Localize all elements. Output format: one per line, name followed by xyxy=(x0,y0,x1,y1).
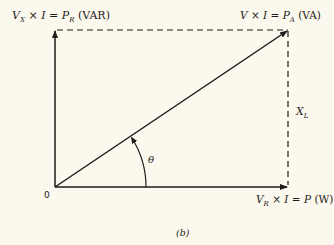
power-triangle-diagram xyxy=(0,0,334,245)
vx-subscript: X xyxy=(20,16,25,24)
equals-symbol: = xyxy=(267,9,282,21)
equals-symbol: = xyxy=(289,193,304,205)
times-symbol: × xyxy=(248,9,263,21)
pa-symbol: P xyxy=(283,9,290,21)
theta-angle-arc xyxy=(132,138,147,188)
reactive-power-label: VX × I = PR (VAR) xyxy=(12,10,110,21)
times-symbol: × xyxy=(269,193,284,205)
figure-caption: (b) xyxy=(176,228,190,238)
origin-label: 0 xyxy=(44,191,50,200)
pr-subscript: R xyxy=(69,16,74,24)
pa-subscript: A xyxy=(290,16,295,24)
times-symbol: × xyxy=(25,9,41,22)
inductive-reactance-label: XL xyxy=(296,106,309,117)
vr-symbol: V xyxy=(256,193,264,205)
theta-label: θ xyxy=(148,155,154,165)
real-power-label: VR × I = P (W) xyxy=(256,194,333,205)
var-unit: (VAR) xyxy=(74,9,110,22)
apparent-power-label: V × I = PA (VA) xyxy=(240,10,321,21)
v-symbol: V xyxy=(240,9,248,21)
apparent-power-vector xyxy=(55,31,287,187)
va-unit: (VA) xyxy=(295,9,321,21)
equals-symbol: = xyxy=(46,9,62,22)
x-symbol: X xyxy=(296,105,304,118)
vx-symbol: V xyxy=(12,9,20,22)
vr-subscript: R xyxy=(264,200,269,208)
w-unit: (W) xyxy=(311,193,333,205)
xl-subscript: L xyxy=(304,112,309,120)
